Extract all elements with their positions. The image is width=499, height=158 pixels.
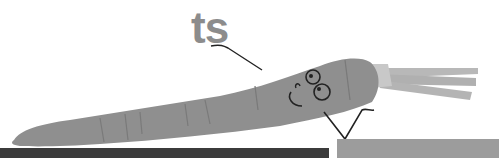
caption-text: ts (191, 6, 228, 50)
bottom-bar-left (0, 148, 329, 158)
carrot-illustration: ts (0, 0, 499, 158)
carrot-drawing (0, 0, 499, 158)
bottom-bar-right (337, 139, 499, 158)
carrot-body-icon (12, 59, 379, 147)
carrot-leaves-icon (370, 64, 478, 100)
